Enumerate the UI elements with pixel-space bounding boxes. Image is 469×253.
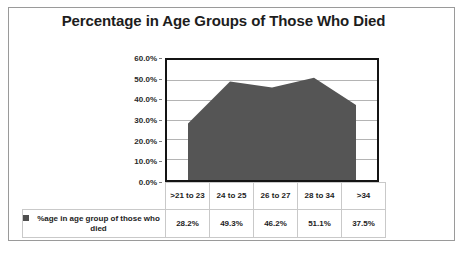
table-row-values: %age in age group of those who died 28.2…: [23, 210, 386, 238]
plot-area: [165, 58, 379, 182]
series-color-swatch-icon: [23, 215, 29, 221]
area-series: [167, 60, 377, 180]
y-axis-tick-label: 30.0%: [134, 116, 157, 125]
y-axis-tick-label: 10.0%: [134, 157, 157, 166]
plot-inner: [167, 60, 377, 180]
category-cell: >34: [342, 183, 386, 210]
table-row-categories: >21 to 23 24 to 25 26 to 27 28 to 34 >34: [23, 183, 386, 210]
y-axis-tick-label: 40.0%: [134, 95, 157, 104]
value-cell: 28.2%: [166, 210, 210, 238]
y-axis-tick-mark: [159, 79, 162, 80]
y-axis-tick-mark: [159, 58, 162, 59]
y-axis: 60.0% 50.0% 40.0% 30.0% 20.0% 10.0% 0.0%: [118, 52, 162, 188]
chart-screenshot: Percentage in Age Groups of Those Who Di…: [0, 0, 469, 253]
category-cell: 28 to 34: [298, 183, 342, 210]
chart-title: Percentage in Age Groups of Those Who Di…: [14, 12, 433, 29]
table-corner-cell: [23, 183, 166, 210]
value-cell: 37.5%: [342, 210, 386, 238]
category-cell: 24 to 25: [210, 183, 254, 210]
y-axis-tick-mark: [159, 99, 162, 100]
legend-label: %age in age group of those who died: [37, 214, 160, 232]
y-axis-tick-label: 20.0%: [134, 136, 157, 145]
y-axis-tick-mark: [159, 141, 162, 142]
legend-entry: %age in age group of those who died: [23, 210, 166, 238]
y-axis-tick-label: 50.0%: [134, 74, 157, 83]
value-cell: 49.3%: [210, 210, 254, 238]
value-cell: 51.1%: [298, 210, 342, 238]
chart-data-table: >21 to 23 24 to 25 26 to 27 28 to 34 >34…: [22, 182, 386, 238]
category-cell: >21 to 23: [166, 183, 210, 210]
plot-area-wrapper: [165, 58, 379, 182]
y-axis-tick-label: 60.0%: [134, 54, 157, 63]
y-axis-tick-mark: [159, 120, 162, 121]
y-axis-tick-mark: [159, 161, 162, 162]
value-cell: 46.2%: [254, 210, 298, 238]
category-cell: 26 to 27: [254, 183, 298, 210]
